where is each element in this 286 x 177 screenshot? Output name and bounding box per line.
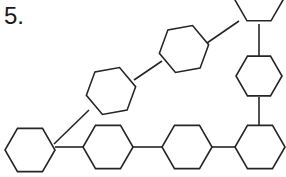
- bond-layer: [54, 21, 259, 147]
- hexagon-upper-middle-diagonal: [159, 26, 208, 73]
- hexagon-right-middle: [236, 56, 282, 96]
- bond-ring1-ring7: [54, 110, 89, 144]
- hexagon-bottom-third: [162, 125, 212, 168]
- hexagon-bottom-right: [235, 125, 285, 168]
- bond-ring8-ring6: [207, 21, 239, 43]
- hexagon-middle-left-diagonal: [86, 68, 135, 115]
- bond-ring7-ring8: [134, 61, 162, 80]
- hexagon-bottom-left: [5, 128, 55, 171]
- hexagon-bottom-second: [83, 125, 133, 168]
- hexagon-top-right: [235, 0, 283, 21]
- ring-layer: [5, 0, 285, 172]
- chemical-structure-canvas: [0, 0, 286, 177]
